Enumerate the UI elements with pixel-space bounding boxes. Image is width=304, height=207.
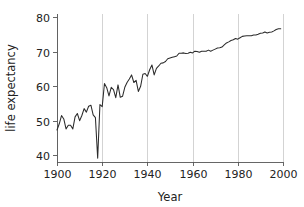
x-tick-label-1980: 1980 bbox=[225, 168, 253, 181]
y-tick-label-60: 60 bbox=[36, 81, 50, 94]
x-axis-title: Year bbox=[157, 190, 183, 204]
y-tick-label-50: 50 bbox=[36, 116, 50, 129]
chart-figure: 4050607080 190019201940196019802000 Year… bbox=[0, 0, 304, 207]
y-tick-label-70: 70 bbox=[36, 47, 50, 60]
life-expectancy-line-chart: 4050607080 190019201940196019802000 Year… bbox=[0, 0, 304, 207]
x-tick-label-1900: 1900 bbox=[44, 168, 72, 181]
x-tick-label-1920: 1920 bbox=[89, 168, 117, 181]
y-axis-title: life expectancy bbox=[4, 44, 18, 132]
x-tick-label-2000: 2000 bbox=[270, 168, 298, 181]
y-tick-label-80: 80 bbox=[36, 12, 50, 25]
y-tick-label-40: 40 bbox=[36, 150, 50, 163]
x-tick-label-1940: 1940 bbox=[134, 168, 162, 181]
x-tick-label-1960: 1960 bbox=[180, 168, 208, 181]
